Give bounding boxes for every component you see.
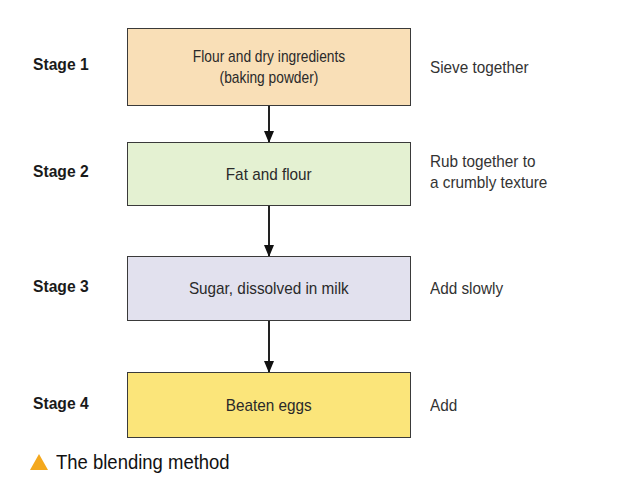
stage-4-note: Add — [430, 395, 457, 416]
stage-4-text: Beaten eggs — [226, 395, 312, 416]
stage-2-box: Fat and flour — [127, 142, 411, 206]
stage-2-text: Fat and flour — [226, 164, 312, 185]
stage-4-label: Stage 4 — [33, 394, 89, 414]
stage-4-box: Beaten eggs — [127, 372, 411, 438]
stage-3-label: Stage 3 — [33, 277, 89, 297]
figure-caption: The blending method — [30, 450, 253, 474]
stage-3-box: Sugar, dissolved in milk — [127, 256, 411, 321]
stage-2-label: Stage 2 — [33, 162, 89, 182]
stage-1-text-line1: Flour and dry ingredients — [193, 46, 345, 67]
stage-3-text: Sugar, dissolved in milk — [189, 278, 349, 299]
stage-1-text: Flour and dry ingredients (baking powder… — [184, 46, 353, 88]
stage-2-note: Rub together to a crumbly texture — [430, 151, 547, 193]
stage-2-note-line2: a crumbly texture — [430, 173, 547, 192]
stage-1-box: Flour and dry ingredients (baking powder… — [127, 28, 411, 106]
stage-3-note: Add slowly — [430, 278, 503, 299]
arrow-2-to-3 — [268, 206, 270, 256]
caption-text: The blending method — [56, 450, 230, 474]
triangle-icon — [30, 454, 48, 470]
stage-1-label: Stage 1 — [33, 55, 89, 75]
arrow-1-to-2 — [268, 106, 270, 142]
arrow-3-to-4 — [268, 321, 270, 372]
stage-1-text-line2: (baking powder) — [220, 67, 319, 88]
stage-2-note-line1: Rub together to — [430, 152, 535, 171]
stage-1-note: Sieve together — [430, 57, 529, 78]
